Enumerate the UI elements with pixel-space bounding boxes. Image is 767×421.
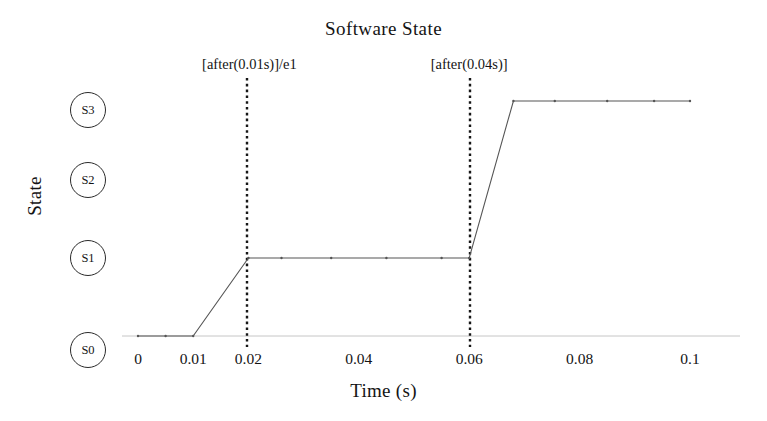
state-line-markers bbox=[137, 100, 691, 337]
annotation-0: [after(0.01s)]/e1 bbox=[202, 56, 297, 73]
data-point bbox=[192, 335, 194, 337]
chart-canvas: Software State State Time (s) S0S1S2S3 0… bbox=[0, 0, 767, 421]
data-point bbox=[468, 257, 470, 259]
data-point bbox=[689, 100, 691, 102]
state-step-line bbox=[138, 101, 690, 336]
state-node-label: S2 bbox=[81, 173, 94, 188]
data-point bbox=[606, 100, 608, 102]
data-point bbox=[512, 100, 514, 102]
x-tick-label-6: 0.1 bbox=[680, 350, 699, 368]
data-point bbox=[440, 257, 442, 259]
state-node-s3: S3 bbox=[70, 92, 106, 128]
data-point bbox=[164, 335, 166, 337]
plot-area bbox=[0, 0, 767, 421]
state-node-label: S3 bbox=[81, 103, 94, 118]
annotation-1: [after(0.04s)] bbox=[431, 56, 508, 73]
state-node-s1: S1 bbox=[70, 240, 106, 276]
x-tick-label-1: 0.01 bbox=[180, 350, 207, 368]
data-point bbox=[247, 257, 249, 259]
x-tick-label-5: 0.08 bbox=[566, 350, 593, 368]
x-tick-label-0: 0 bbox=[134, 350, 142, 368]
data-point bbox=[137, 335, 139, 337]
state-node-s0: S0 bbox=[70, 332, 106, 368]
state-node-label: S0 bbox=[81, 343, 94, 358]
x-tick-label-4: 0.06 bbox=[456, 350, 483, 368]
x-tick-label-3: 0.04 bbox=[345, 350, 372, 368]
x-tick-label-2: 0.02 bbox=[235, 350, 262, 368]
data-point bbox=[653, 100, 655, 102]
state-node-label: S1 bbox=[81, 251, 94, 266]
data-point bbox=[385, 257, 387, 259]
state-node-s2: S2 bbox=[70, 162, 106, 198]
data-point bbox=[330, 257, 332, 259]
data-point bbox=[554, 100, 556, 102]
data-point bbox=[280, 257, 282, 259]
